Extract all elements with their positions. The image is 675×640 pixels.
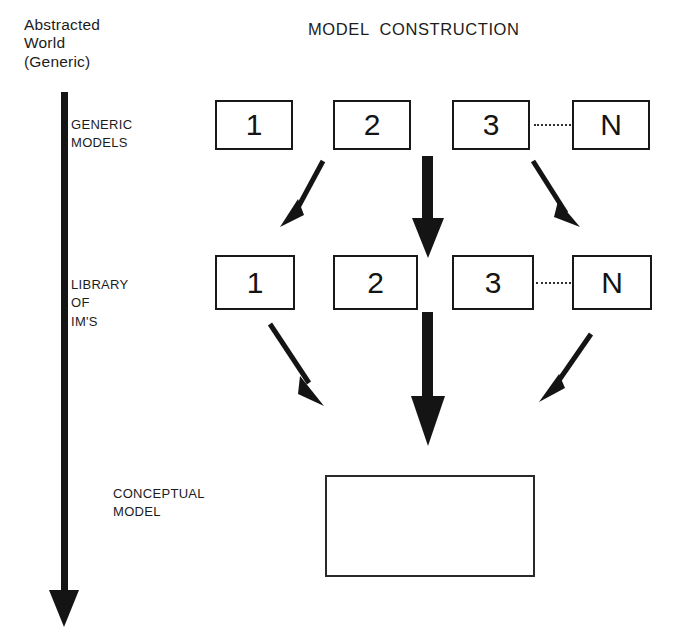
diagram-title: MODEL CONSTRUCTION <box>308 20 520 39</box>
arrow-library-to-conceptual-center <box>405 312 451 452</box>
generic-model-box-1-label: 1 <box>246 110 263 140</box>
generic-model-box-2-label: 2 <box>364 110 381 140</box>
library-im-box-2-label: 2 <box>367 268 384 298</box>
generic-model-box-2[interactable]: 2 <box>333 100 411 150</box>
library-im-box-3-label: 3 <box>485 268 502 298</box>
generic-models-ellipsis-connector <box>534 124 571 126</box>
arrow-library-to-conceptual-right <box>535 330 597 410</box>
arrow-library-to-conceptual-left <box>262 318 332 413</box>
abstracted-world-caption: Abstracted World (Generic) <box>24 16 100 71</box>
library-im-box-3[interactable]: 3 <box>452 255 534 310</box>
diagram-canvas: Abstracted World (Generic) MODEL CONSTRU… <box>0 0 675 640</box>
abstraction-axis-arrow <box>46 92 82 630</box>
stage-label-library-of-ims: LIBRARY OF IM'S <box>71 276 129 331</box>
generic-model-box-n[interactable]: N <box>572 100 650 150</box>
library-im-box-1-label: 1 <box>247 268 264 298</box>
library-im-ellipsis-connector <box>536 282 571 284</box>
conceptual-model-box[interactable] <box>325 475 535 577</box>
generic-model-box-n-label: N <box>600 110 622 140</box>
stage-label-conceptual-model: CONCEPTUAL MODEL <box>113 485 205 522</box>
generic-model-box-3[interactable]: 3 <box>452 100 530 150</box>
generic-model-box-3-label: 3 <box>483 110 500 140</box>
arrow-generic-to-library-right <box>522 155 584 235</box>
stage-label-generic-models: GENERIC MODELS <box>71 116 132 153</box>
arrow-generic-to-library-left <box>278 155 338 235</box>
library-im-box-2[interactable]: 2 <box>333 255 418 310</box>
generic-model-box-1[interactable]: 1 <box>215 100 293 150</box>
arrow-generic-to-library-center <box>405 152 451 262</box>
library-im-box-n[interactable]: N <box>572 255 652 310</box>
library-im-box-1[interactable]: 1 <box>215 255 295 310</box>
library-im-box-n-label: N <box>601 268 623 298</box>
